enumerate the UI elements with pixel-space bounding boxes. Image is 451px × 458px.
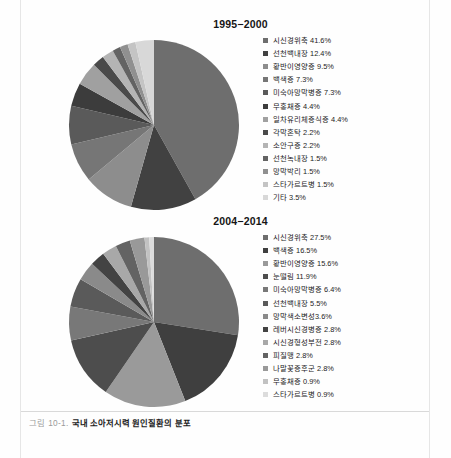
figure-caption-number: 그림 10-1. bbox=[29, 418, 69, 428]
legend-swatch bbox=[263, 340, 268, 345]
legend-swatch bbox=[263, 314, 268, 319]
legend-item: 황반이영양증 15.6% bbox=[263, 257, 341, 270]
legend-item: 망막박리 1.5% bbox=[263, 165, 348, 178]
legend-label: 미숙아망막병증 7.3% bbox=[273, 88, 341, 97]
legend-swatch bbox=[263, 130, 268, 135]
legend-item: 미숙아망막병증 6.4% bbox=[263, 283, 341, 296]
legend-item: 백색증 16.5% bbox=[263, 244, 341, 257]
legend-item: 무홍채증 0.9% bbox=[263, 375, 341, 388]
legend-swatch bbox=[263, 104, 268, 109]
legend-label: 백색증 16.5% bbox=[273, 246, 317, 255]
legend-item: 황반이영양증 9.5% bbox=[263, 60, 348, 73]
legend-label: 눈떨림 11.9% bbox=[273, 272, 316, 281]
legend-item: 소안구증 2.2% bbox=[263, 139, 348, 152]
legend-item: 스타가르트병 1.5% bbox=[263, 178, 348, 191]
chart-title-1995-2000: 1995−2000 bbox=[21, 18, 430, 30]
legend-swatch bbox=[263, 143, 268, 148]
legend-swatch bbox=[263, 379, 268, 384]
legend-label: 황반이영양증 9.5% bbox=[273, 62, 334, 71]
legend-item: 선천백내장 5.5% bbox=[263, 296, 341, 309]
legend-item: 무홍채증 4.4% bbox=[263, 99, 348, 112]
legend-swatch bbox=[263, 366, 268, 371]
legend-label: 미숙아망막병증 6.4% bbox=[273, 285, 341, 294]
legend-2004-2014: 시신경위축 27.5%백색증 16.5%황반이영양증 15.6%눈떨림 11.9… bbox=[263, 231, 341, 401]
legend-item: 망막색소변성3.6% bbox=[263, 310, 341, 323]
legend-label: 백색증 7.3% bbox=[273, 75, 313, 84]
legend-item: 백색증 7.3% bbox=[263, 73, 348, 86]
legend-swatch bbox=[263, 64, 268, 69]
legend-swatch bbox=[263, 287, 268, 292]
legend-item: 선천백내장 12.4% bbox=[263, 47, 348, 60]
legend-item: 시신경위축 41.6% bbox=[263, 34, 348, 47]
figure-caption-text: 국내 소아저시력 원인질환의 분포 bbox=[72, 418, 191, 428]
legend-swatch bbox=[263, 182, 268, 187]
legend-label: 각막혼탁 2.2% bbox=[273, 128, 320, 137]
legend-label: 시신경위축 41.6% bbox=[273, 36, 331, 45]
legend-label: 선천백내장 5.5% bbox=[273, 299, 327, 308]
legend-item: 일차유리체증식증 4.4% bbox=[263, 113, 348, 126]
legend-swatch bbox=[263, 235, 268, 240]
chart-title-2004-2014: 2004−2014 bbox=[21, 215, 430, 227]
legend-label: 레버시신경병증 2.8% bbox=[273, 325, 341, 334]
legend-swatch bbox=[263, 261, 268, 266]
legend-item: 각막혼탁 2.2% bbox=[263, 126, 348, 139]
legend-item: 눈떨림 11.9% bbox=[263, 270, 341, 283]
legend-label: 무홍채증 0.9% bbox=[273, 377, 320, 386]
legend-label: 시신경위축 27.5% bbox=[273, 233, 331, 242]
chart-block-2004-2014: 2004−2014 시신경위축 27.5%백색증 16.5%황반이영양증 15.… bbox=[21, 215, 430, 405]
legend-item: 피질맹 2.8% bbox=[263, 349, 341, 362]
legend-label: 선천백내장 12.4% bbox=[273, 49, 331, 58]
legend-label: 기타 3.5% bbox=[273, 193, 306, 202]
legend-swatch bbox=[263, 90, 268, 95]
legend-swatch bbox=[263, 169, 268, 174]
legend-swatch bbox=[263, 51, 268, 56]
legend-label: 선천녹내장 1.5% bbox=[273, 154, 327, 163]
legend-swatch bbox=[263, 301, 268, 306]
legend-label: 망막색소변성3.6% bbox=[273, 312, 332, 321]
legend-item: 기타 3.5% bbox=[263, 191, 348, 204]
pie-chart-1995-2000 bbox=[67, 38, 241, 212]
legend-label: 소안구증 2.2% bbox=[273, 141, 320, 150]
legend-swatch bbox=[263, 77, 268, 82]
legend-label: 시신경형성부전 2.8% bbox=[273, 338, 341, 347]
chart-block-1995-2000: 1995−2000 시신경위축 41.6%선천백내장 12.4%황반이영양증 9… bbox=[21, 18, 430, 214]
legend-swatch bbox=[263, 117, 268, 122]
legend-item: 스타가르트병 0.9% bbox=[263, 388, 341, 401]
figure-caption: 그림 10-1.국내 소아저시력 원인질환의 분포 bbox=[29, 418, 191, 429]
legend-swatch bbox=[263, 38, 268, 43]
legend-label: 피질맹 2.8% bbox=[273, 351, 313, 360]
legend-swatch bbox=[263, 353, 268, 358]
legend-label: 스타가르트병 1.5% bbox=[273, 180, 334, 189]
legend-item: 선천녹내장 1.5% bbox=[263, 152, 348, 165]
legend-label: 망막박리 1.5% bbox=[273, 167, 320, 176]
legend-swatch bbox=[263, 274, 268, 279]
legend-label: 나말꽃증후군 2.8% bbox=[273, 364, 334, 373]
legend-item: 나말꽃증후군 2.8% bbox=[263, 362, 341, 375]
pie-chart-2004-2014 bbox=[67, 235, 241, 409]
pie-slice bbox=[154, 237, 239, 335]
legend-item: 레버시신경병증 2.8% bbox=[263, 323, 341, 336]
legend-item: 미숙아망막병증 7.3% bbox=[263, 86, 348, 99]
legend-swatch bbox=[263, 392, 268, 397]
legend-item: 시신경위축 27.5% bbox=[263, 231, 341, 244]
figure-separator bbox=[21, 411, 429, 412]
legend-label: 황반이영양증 15.6% bbox=[273, 259, 338, 268]
legend-1995-2000: 시신경위축 41.6%선천백내장 12.4%황반이영양증 9.5%백색증 7.3… bbox=[263, 34, 348, 204]
legend-swatch bbox=[263, 156, 268, 161]
legend-swatch bbox=[263, 195, 268, 200]
legend-swatch bbox=[263, 248, 268, 253]
legend-label: 무홍채증 4.4% bbox=[273, 102, 320, 111]
figure-page: 1995−2000 시신경위축 41.6%선천백내장 12.4%황반이영양증 9… bbox=[0, 0, 451, 458]
legend-item: 시신경형성부전 2.8% bbox=[263, 336, 341, 349]
legend-label: 일차유리체증식증 4.4% bbox=[273, 115, 348, 124]
legend-swatch bbox=[263, 327, 268, 332]
legend-label: 스타가르트병 0.9% bbox=[273, 390, 334, 399]
